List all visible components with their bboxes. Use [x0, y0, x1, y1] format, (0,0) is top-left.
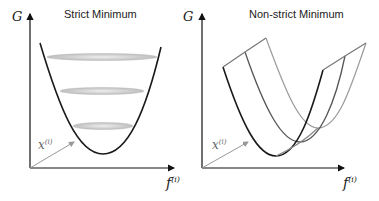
panel-title-strict: Strict Minimum [64, 8, 137, 20]
x-axis-superscript: (i) [171, 175, 180, 184]
y-axis-label-text: G [183, 9, 193, 24]
valley-curve-back [266, 38, 366, 128]
level-set-ellipse-middle [60, 88, 144, 95]
y-axis-label-left: G [12, 9, 22, 24]
ridge-line-left [223, 38, 266, 67]
level-set-ellipse-top [47, 54, 157, 61]
valley-curve-front [223, 67, 323, 156]
diagram-canvas [0, 0, 379, 201]
panel-title-non-strict: Non-strict Minimum [249, 8, 344, 20]
depth-axis-label-right: x(i) [212, 138, 226, 152]
y-axis-label-right: G [183, 9, 193, 24]
ridge-line-right [323, 43, 366, 70]
x-axis-label-right: f(i) [343, 175, 357, 191]
depth-axis-label-text: x [212, 138, 219, 152]
non-strict-minimum-panel [202, 14, 366, 168]
x-axis-superscript: (i) [348, 175, 357, 184]
x-axis-label-left: f(i) [166, 175, 180, 191]
depth-axis-label-text: x [38, 138, 45, 152]
depth-axis-label-left: x(i) [38, 138, 52, 152]
depth-axis-superscript: (i) [219, 138, 227, 146]
level-set-ellipse-bottom [73, 123, 133, 130]
y-axis-label-text: G [12, 9, 22, 24]
depth-axis-superscript: (i) [45, 138, 53, 146]
